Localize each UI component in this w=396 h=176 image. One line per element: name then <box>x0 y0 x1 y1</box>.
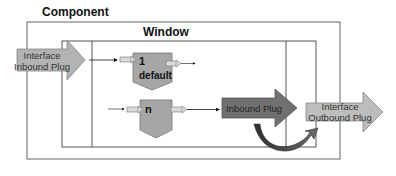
plug-1-name: default <box>139 70 172 81</box>
plug-n-input-pin <box>127 107 139 112</box>
plug-1-number: 1 <box>139 55 145 67</box>
inbound-plug-label: Inbound Plug <box>226 103 282 114</box>
plug-1-output-pin <box>166 61 177 66</box>
plug-n-number: n <box>145 103 152 115</box>
interface-outbound-line2: Outbound Plug <box>308 112 371 123</box>
interface-outbound-line1: Interface <box>322 101 359 112</box>
interface-inbound-line1: Interface <box>24 50 61 61</box>
diagram-canvas: Interface Inbound Plug 1 default n Inbou… <box>0 0 396 176</box>
outbound-plug-n-shape <box>127 100 187 138</box>
component-box <box>27 22 340 159</box>
plug-n-output-pin <box>171 107 183 112</box>
interface-inbound-line2: Inbound Plug <box>14 61 70 72</box>
